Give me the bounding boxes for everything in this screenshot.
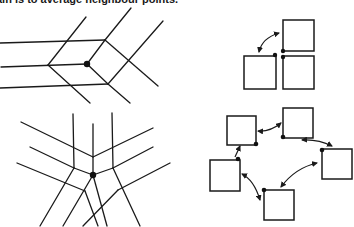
- vertex-dot: [84, 61, 90, 67]
- figure-canvas: [0, 0, 354, 227]
- arrow-icon: [235, 146, 240, 157]
- double-arrow-icon: [242, 174, 260, 200]
- patch-box: [244, 56, 276, 89]
- three-patch-diagram: [244, 20, 314, 89]
- five-patch-diagram: [210, 108, 352, 220]
- double-arrow-icon: [259, 33, 279, 52]
- irregular-mesh-diagram: [17, 113, 170, 226]
- patch-box: [283, 56, 314, 89]
- double-arrow-icon: [258, 123, 281, 131]
- patch-box: [322, 149, 352, 179]
- double-arrow-icon: [302, 140, 332, 146]
- vertex-dot: [90, 172, 96, 178]
- patch-box: [264, 190, 294, 220]
- patch-box: [283, 108, 313, 138]
- patch-box: [283, 20, 314, 51]
- patch-box: [210, 160, 240, 191]
- regular-mesh-diagram: [0, 8, 163, 103]
- double-arrow-icon: [281, 163, 317, 187]
- patch-box: [227, 116, 256, 145]
